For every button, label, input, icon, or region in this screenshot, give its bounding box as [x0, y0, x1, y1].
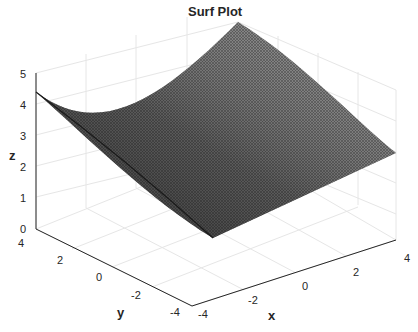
z-tick: 5 — [20, 68, 26, 80]
y-tick: -4 — [170, 306, 180, 318]
z-ticks: 0 1 2 3 4 5 — [20, 68, 26, 235]
z-tick: 3 — [20, 130, 26, 142]
surf-plot: 0 1 2 3 4 5 4 2 0 -2 -4 -4 -2 0 2 4 z y … — [0, 0, 418, 332]
y-tick: 2 — [57, 254, 63, 266]
y-ticks: 4 2 0 -2 -4 — [18, 237, 180, 318]
z-tick: 2 — [20, 161, 26, 173]
y-axis-line — [36, 229, 192, 306]
x-tick: 0 — [302, 280, 308, 292]
y-tick: -2 — [131, 289, 141, 301]
z-axis-label: z — [9, 148, 16, 163]
y-tick: 4 — [18, 237, 24, 249]
z-tick: 0 — [20, 223, 26, 235]
x-tick: -4 — [198, 308, 208, 320]
x-tick: 4 — [404, 252, 410, 264]
chart-title: Surf Plot — [188, 4, 243, 19]
y-axis-label: y — [117, 305, 125, 320]
x-axis-label: x — [268, 308, 276, 323]
surface — [36, 22, 396, 238]
x-ticks: -4 -2 0 2 4 — [198, 252, 410, 320]
figure: 0 1 2 3 4 5 4 2 0 -2 -4 -4 -2 0 2 4 z y … — [0, 0, 418, 332]
y-tick: 0 — [96, 271, 102, 283]
z-tick: 1 — [20, 192, 26, 204]
x-tick: -2 — [248, 294, 258, 306]
x-axis-line — [192, 240, 396, 306]
x-tick: 2 — [353, 266, 359, 278]
z-tick: 4 — [20, 99, 26, 111]
